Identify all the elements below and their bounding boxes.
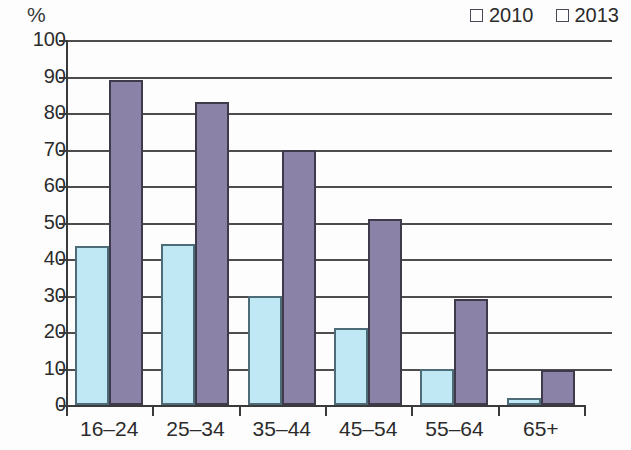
y-tick-label-10: 10 <box>14 358 66 378</box>
bar-2010-55–64 <box>420 369 454 406</box>
y-tick-mark-90 <box>59 77 66 79</box>
y-tick-mark-30 <box>59 296 66 298</box>
x-tick-mark-6 <box>584 405 586 416</box>
x-tick-mark-0 <box>66 405 68 416</box>
bar-group-55–64 <box>411 40 497 405</box>
chart-bars <box>66 40 612 405</box>
bar-group-45–54 <box>325 40 411 405</box>
y-tick-label-0: 0 <box>14 394 66 414</box>
bar-group-65+ <box>498 40 584 405</box>
bar-chart: % 2010 2013 1009080706050403020100 16–24… <box>0 0 631 450</box>
y-tick-label-100: 100 <box>14 29 66 49</box>
y-axis-tick-labels: 1009080706050403020100 <box>0 0 66 450</box>
y-tick-label-30: 30 <box>14 285 66 305</box>
y-tick-mark-50 <box>59 223 66 225</box>
y-tick-label-80: 80 <box>14 102 66 122</box>
y-tick-mark-10 <box>59 369 66 371</box>
bar-2013-45–54 <box>368 219 402 405</box>
bar-2013-65+ <box>541 370 575 405</box>
y-tick-mark-70 <box>59 150 66 152</box>
x-tick-label-35–44: 35–44 <box>239 418 325 439</box>
x-tick-label-55–64: 55–64 <box>411 418 497 439</box>
y-tick-label-50: 50 <box>14 212 66 232</box>
x-tick-mark-4 <box>411 405 413 416</box>
y-tick-label-90: 90 <box>14 66 66 86</box>
bar-2010-35–44 <box>248 296 282 406</box>
bar-group-35–44 <box>239 40 325 405</box>
y-tick-mark-100 <box>59 40 66 42</box>
y-tick-label-40: 40 <box>14 248 66 268</box>
legend-item-2013: 2013 <box>556 5 620 25</box>
x-tick-mark-3 <box>325 405 327 416</box>
x-tick-mark-1 <box>152 405 154 416</box>
bar-2010-25–34 <box>161 244 195 405</box>
y-tick-mark-0 <box>59 405 66 407</box>
legend-label-2010: 2010 <box>489 5 534 25</box>
y-tick-label-20: 20 <box>14 321 66 341</box>
bar-2010-65+ <box>507 398 541 405</box>
legend-item-2010: 2010 <box>470 5 534 25</box>
square-swatch-icon <box>470 9 483 22</box>
x-tick-mark-2 <box>239 405 241 416</box>
y-tick-label-60: 60 <box>14 175 66 195</box>
y-tick-mark-80 <box>59 113 66 115</box>
y-tick-mark-40 <box>59 259 66 261</box>
bar-group-16–24 <box>66 40 152 405</box>
y-tick-mark-60 <box>59 186 66 188</box>
x-tick-label-25–34: 25–34 <box>152 418 238 439</box>
y-tick-label-70: 70 <box>14 139 66 159</box>
bar-2013-35–44 <box>282 150 316 406</box>
square-swatch-icon <box>556 9 569 22</box>
bar-2013-16–24 <box>109 80 143 405</box>
x-tick-label-65+: 65+ <box>498 418 584 439</box>
x-tick-label-16–24: 16–24 <box>66 418 152 439</box>
x-tick-label-45–54: 45–54 <box>325 418 411 439</box>
bar-2013-25–34 <box>195 102 229 405</box>
legend-label-2013: 2013 <box>575 5 620 25</box>
bar-group-25–34 <box>152 40 238 405</box>
bar-2010-45–54 <box>334 328 368 405</box>
bar-2010-16–24 <box>75 246 109 405</box>
x-tick-mark-5 <box>498 405 500 416</box>
chart-legend: 2010 2013 <box>470 5 619 25</box>
bar-2013-55–64 <box>454 299 488 405</box>
y-tick-mark-20 <box>59 332 66 334</box>
